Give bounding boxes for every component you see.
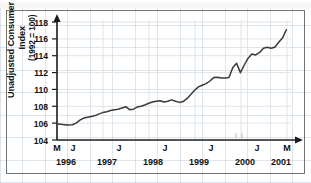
x-year-label-1996: 1996	[51, 157, 81, 167]
y-tick-label-118: 118	[26, 18, 48, 28]
x-year-label-2001: 2001	[266, 157, 296, 167]
x-tick-label-1997-07: J	[112, 143, 126, 153]
x-tick-label-1996-03: M	[50, 143, 64, 153]
x-tick-label-2000-07: J	[250, 143, 264, 153]
y-tick-label-106: 106	[26, 119, 48, 129]
y-tick-label-116: 116	[26, 34, 48, 44]
x-tick-label-1998-07: J	[158, 143, 172, 153]
x-tick-label-1996-07: J	[66, 143, 80, 153]
x-tick-label-2001-03: M	[280, 143, 294, 153]
cpi-data-line	[57, 30, 286, 125]
plot-gridlines	[57, 20, 291, 140]
x-year-label-1997: 1997	[92, 157, 122, 167]
x-year-label-1998: 1998	[138, 157, 168, 167]
x-year-label-1999: 1999	[184, 157, 214, 167]
y-tick-label-104: 104	[26, 136, 48, 146]
y-tick-label-108: 108	[26, 102, 48, 112]
x-year-label-2000: 2000	[230, 157, 260, 167]
y-tick-label-114: 114	[26, 51, 48, 61]
figure-container: Unadjusted Consumer Price Index (1992 = …	[0, 0, 311, 183]
x-tick-label-1999-07: J	[204, 143, 218, 153]
y-axis-title-line1: Unadjusted Consumer Price Index	[6, 0, 27, 98]
y-tick-label-112: 112	[26, 68, 48, 78]
y-tick-label-110: 110	[26, 85, 48, 95]
x-axis-arrowhead	[295, 136, 303, 143]
y-axis-arrowhead	[53, 14, 60, 22]
